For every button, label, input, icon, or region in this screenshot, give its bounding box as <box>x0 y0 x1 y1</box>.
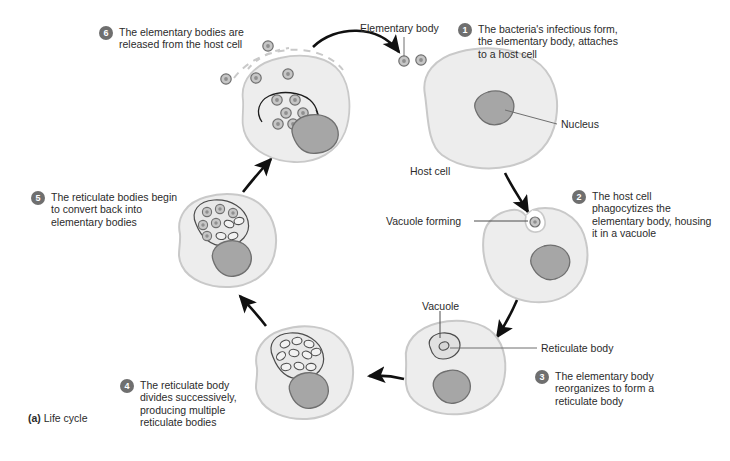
step-6-text: The elementary bodies are released from … <box>119 26 245 51</box>
figure-caption-text: Life cycle <box>44 412 88 424</box>
label-nucleus: Nucleus <box>561 118 599 130</box>
label-vacuole-forming: Vacuole forming <box>386 215 461 227</box>
life-cycle-diagram: 6 The elementary bodies are released fro… <box>0 0 730 461</box>
label-host-cell: Host cell <box>410 165 450 177</box>
step-5-badge: 5 <box>31 191 45 205</box>
step-6-badge: 6 <box>99 26 113 40</box>
step-1-text: The bacteria's infectious form, the elem… <box>478 23 618 60</box>
cell-step-5 <box>179 194 276 287</box>
step-2-text: The host cell phagocytizes the elementar… <box>592 190 714 240</box>
cell-step-3 <box>406 311 537 414</box>
cell-step-6 <box>221 41 350 162</box>
step-3-text: The elementary body reorganizes to form … <box>555 370 685 407</box>
step-3-badge: 3 <box>535 370 549 384</box>
step-2-badge: 2 <box>572 190 586 204</box>
step-4-badge: 4 <box>120 379 134 393</box>
label-vacuole: Vacuole <box>422 300 459 312</box>
figure-caption-marker: (a) <box>28 412 41 424</box>
step-4-text: The reticulate body divides successively… <box>140 379 250 429</box>
label-reticulate-body: Reticulate body <box>541 342 613 354</box>
cell-step-2 <box>474 208 587 302</box>
cell-step-4 <box>256 326 353 419</box>
figure-caption: (a) Life cycle <box>28 412 88 424</box>
step-5-text: The reticulate bodies begin to convert b… <box>51 191 181 228</box>
label-elementary-body: Elementary body <box>360 22 439 34</box>
step-1-badge: 1 <box>458 23 472 37</box>
